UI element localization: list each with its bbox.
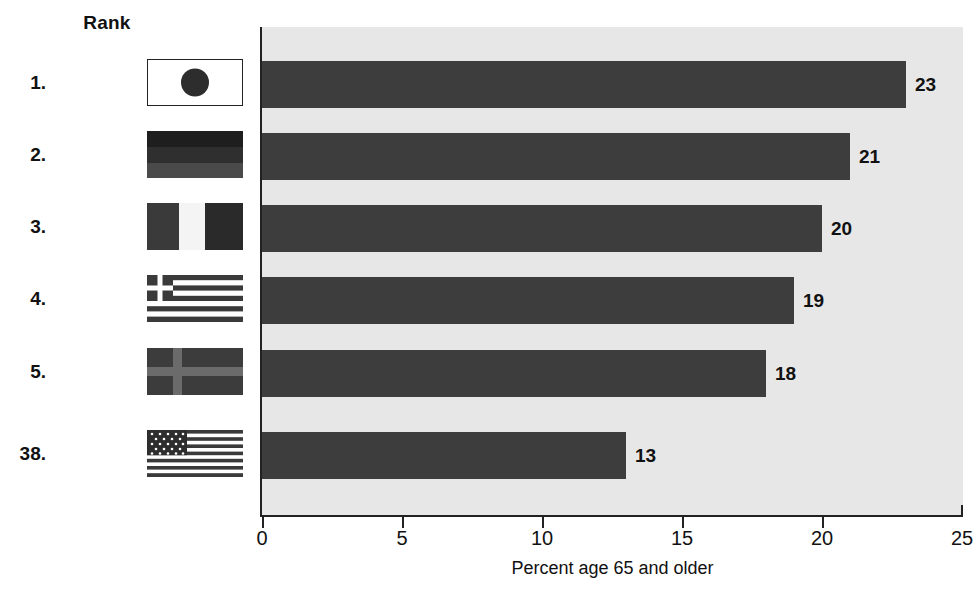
rank-value: 3. [0, 216, 52, 238]
flag-japan-icon [147, 59, 243, 106]
x-tick-label: 0 [256, 527, 267, 550]
x-tick-label: 25 [951, 527, 973, 550]
rank-value: 1. [0, 72, 52, 94]
flag-sweden-icon [147, 348, 243, 395]
x-tick-label: 20 [811, 527, 833, 550]
bar-value-label: 18 [766, 350, 796, 397]
bar-usa[interactable] [262, 432, 626, 479]
flag-germany-icon [147, 131, 243, 178]
flag-italy-icon [147, 203, 243, 250]
x-tick-label: 5 [396, 527, 407, 550]
bar-value-label: 21 [850, 133, 880, 180]
x-axis-line [260, 515, 963, 517]
x-axis-title: Percent age 65 and older [262, 558, 963, 579]
bar-value-label: 19 [794, 277, 824, 324]
bar-chart: Rank 1. Japan 2. Germany 3. Italy 4. Gre… [0, 0, 976, 596]
x-axis-right-cap [961, 505, 963, 517]
bar-italy[interactable] [262, 205, 822, 252]
x-tick-label: 15 [671, 527, 693, 550]
bar-japan[interactable] [262, 61, 906, 108]
bar-value-label: 13 [626, 432, 656, 479]
rank-column-header: Rank [52, 12, 162, 34]
flag-greece-icon [147, 275, 243, 322]
bar-value-label: 20 [822, 205, 852, 252]
rank-value: 4. [0, 288, 52, 310]
rank-value: 2. [0, 144, 52, 166]
x-tick-label: 10 [531, 527, 553, 550]
bar-value-label: 23 [906, 61, 936, 108]
rank-value: 5. [0, 361, 52, 383]
flag-usa-icon [147, 430, 243, 477]
bar-germany[interactable] [262, 133, 850, 180]
bar-sweden[interactable] [262, 350, 766, 397]
rank-value: 38. [0, 443, 52, 465]
bar-greece[interactable] [262, 277, 794, 324]
